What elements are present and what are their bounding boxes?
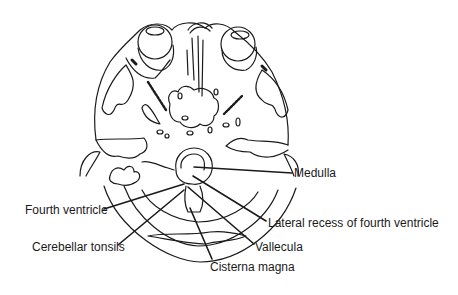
label-medulla: Medulla: [294, 166, 336, 180]
label-vallecula: Vallecula: [255, 240, 303, 254]
anatomical-diagram: Medulla Fourth ventricle Lateral recess …: [0, 0, 458, 295]
label-cerebellar-tonsils: Cerebellar tonsils: [32, 240, 125, 254]
label-lateral-recess-of-fourth-ventricle: Lateral recess of fourth ventricle: [268, 216, 439, 230]
label-cisterna-magna: Cisterna magna: [210, 260, 295, 274]
label-fourth-ventricle: Fourth ventricle: [25, 203, 108, 217]
